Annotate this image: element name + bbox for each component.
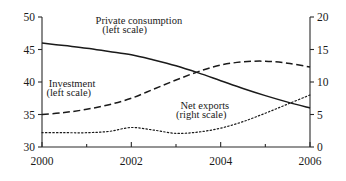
right-axis-tick-label: 20 bbox=[317, 11, 329, 23]
left-axis-tick-label: 50 bbox=[24, 11, 36, 23]
right-axis-tick-label: 10 bbox=[317, 76, 329, 88]
x-axis-tick-label: 2002 bbox=[120, 155, 143, 167]
x-axis-tick-label: 2000 bbox=[31, 155, 54, 167]
left-axis-tick-label: 35 bbox=[24, 109, 36, 121]
left-axis-tick-label: 30 bbox=[24, 141, 36, 153]
economic-indicators-chart: 3035404550051015202000200220042006 Priva… bbox=[0, 0, 346, 181]
x-axis-tick-label: 2006 bbox=[299, 155, 322, 167]
right-axis-tick-label: 15 bbox=[317, 44, 329, 56]
series-annotations-group: Private consumption(left scale)Investmen… bbox=[46, 15, 229, 121]
left-axis-tick-label: 45 bbox=[24, 44, 36, 56]
right-axis-tick-label: 0 bbox=[317, 141, 323, 153]
x-axis-tick-label: 2004 bbox=[209, 155, 232, 167]
series-annotation-label: (left scale) bbox=[46, 87, 91, 99]
right-axis-tick-label: 5 bbox=[317, 109, 323, 121]
series-annotation-label: (left scale) bbox=[102, 24, 147, 36]
series-annotation-label: (right scale) bbox=[176, 109, 227, 121]
chart-canvas: 3035404550051015202000200220042006 Priva… bbox=[0, 0, 346, 181]
series-line-private-consumption bbox=[42, 43, 310, 108]
left-axis-tick-label: 40 bbox=[24, 76, 36, 88]
